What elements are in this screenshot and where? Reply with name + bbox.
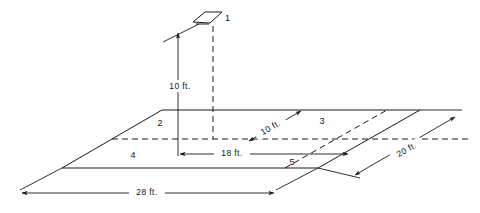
base-extension-left — [20, 168, 62, 190]
region-label-4: 4 — [130, 150, 135, 160]
dimension-label-base: 28 ft. — [136, 187, 157, 197]
base-dimension-arrow — [20, 168, 318, 193]
side-label-group: 20 ft. — [389, 137, 424, 164]
height-label-group: 10 ft. — [163, 80, 197, 92]
geometry-diagram: 1 2 3 4 5 10 ft. 10 ft. 18 ft. 20 ft. — [0, 0, 480, 213]
dimension-label-height: 10 ft. — [169, 81, 190, 91]
width-label-group: 18 ft. — [214, 147, 250, 159]
diagram-canvas: 1 2 3 4 5 10 ft. 10 ft. 18 ft. 20 ft. — [0, 0, 480, 213]
depth-label-group: 10 ft. — [253, 115, 288, 142]
region-label-5: 5 — [289, 157, 294, 167]
part-label-1: 1 — [225, 13, 230, 23]
region-label-2: 2 — [157, 118, 162, 128]
side-extension-lower — [318, 168, 360, 178]
part-1-outline — [193, 12, 222, 23]
region-label-3: 3 — [319, 116, 324, 126]
height-leader-line — [163, 24, 199, 42]
top-face-parallelogram — [193, 12, 222, 24]
base-extension-right — [276, 168, 318, 190]
dimension-label-width: 18 ft. — [221, 148, 242, 158]
side-dimension-arrow — [318, 110, 462, 178]
base-label-group: 28 ft. — [129, 186, 165, 198]
